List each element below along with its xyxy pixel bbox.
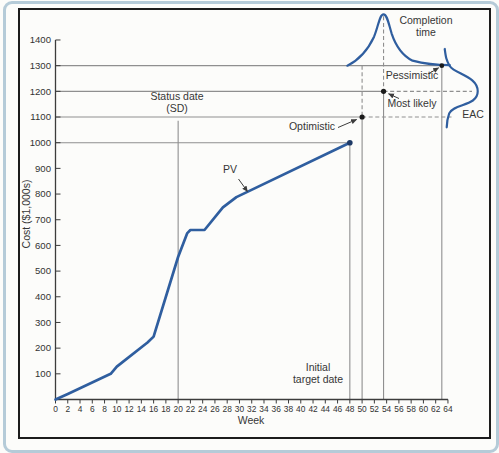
- x-tick-label: 2: [65, 404, 70, 414]
- x-tick-label: 20: [173, 404, 183, 414]
- x-tick-label: 16: [149, 404, 159, 414]
- x-tick-group: 0246810121416182022242628303234363840424…: [53, 400, 453, 415]
- y-tick-label: 900: [35, 163, 51, 174]
- y-tick-label: 1300: [30, 60, 51, 71]
- x-tick-label: 56: [394, 404, 404, 414]
- x-tick-label: 6: [90, 404, 95, 414]
- x-tick-label: 14: [137, 404, 147, 414]
- x-tick-label: 24: [198, 404, 208, 414]
- completion-time-line1: Completion: [399, 15, 452, 27]
- y-tick-label: 400: [35, 291, 51, 302]
- initial-target-line2: target date: [293, 374, 343, 386]
- x-tick-label: 36: [272, 404, 282, 414]
- x-tick-label: 50: [357, 404, 367, 414]
- figure-canvas: 0246810121416182022242628303234363840424…: [0, 0, 499, 453]
- pv-label: PV: [223, 164, 237, 176]
- completion-time-line2: time: [399, 27, 452, 39]
- x-tick-label: 0: [53, 404, 58, 414]
- initial-target-date-label: Initial target date: [293, 362, 343, 385]
- x-tick-label: 42: [308, 404, 318, 414]
- pessimistic-dot: [439, 63, 444, 68]
- x-axis-title: Week: [238, 415, 265, 427]
- y-tick-label: 100: [35, 368, 51, 379]
- x-tick-label: 54: [382, 404, 392, 414]
- x-tick-label: 8: [102, 404, 107, 414]
- status-date-line2: (SD): [150, 103, 203, 115]
- most-likely-label: Most likely: [387, 98, 436, 110]
- y-tick-label: 1000: [30, 137, 51, 148]
- x-tick-label: 34: [259, 404, 269, 414]
- x-tick-label: 18: [161, 404, 171, 414]
- x-tick-label: 32: [247, 404, 257, 414]
- x-tick-label: 48: [345, 404, 355, 414]
- optimistic-dot: [360, 114, 365, 119]
- x-tick-label: 26: [210, 404, 220, 414]
- initial-target-line1: Initial: [293, 362, 343, 374]
- x-tick-label: 30: [235, 404, 245, 414]
- x-tick-label: 40: [296, 404, 306, 414]
- x-tick-label: 22: [186, 404, 196, 414]
- x-tick-label: 58: [406, 404, 416, 414]
- x-tick-label: 60: [419, 404, 429, 414]
- x-tick-label: 28: [223, 404, 233, 414]
- y-tick-label: 1200: [30, 86, 51, 97]
- x-tick-label: 10: [112, 404, 122, 414]
- pv-end-dot: [347, 140, 353, 146]
- optimistic-label: Optimistic: [289, 121, 335, 133]
- most-likely-dot: [381, 89, 386, 94]
- y-axis-title: Cost ($1,000s): [20, 180, 32, 249]
- x-tick-label: 62: [431, 404, 441, 414]
- y-tick-label: 700: [35, 214, 51, 225]
- x-tick-label: 52: [370, 404, 380, 414]
- y-tick-label: 800: [35, 188, 51, 199]
- x-tick-label: 64: [443, 404, 453, 414]
- chart-svg: 0246810121416182022242628303234363840424…: [0, 0, 499, 453]
- x-tick-label: 12: [124, 404, 134, 414]
- y-tick-label: 1100: [30, 111, 51, 122]
- y-tick-label: 200: [35, 342, 51, 353]
- status-date-line1: Status date: [150, 91, 203, 103]
- x-tick-label: 44: [321, 404, 331, 414]
- status-date-label: Status date (SD): [150, 91, 203, 114]
- x-tick-label: 38: [284, 404, 294, 414]
- y-tick-label: 300: [35, 317, 51, 328]
- x-tick-label: 46: [333, 404, 343, 414]
- pv-arrow: [239, 179, 248, 192]
- x-tick-label: 4: [78, 404, 83, 414]
- completion-time-label: Completion time: [399, 15, 452, 38]
- y-tick-label: 1400: [30, 34, 51, 45]
- pessimistic-label: Pessimistic: [386, 70, 439, 82]
- y-tick-label: 600: [35, 240, 51, 251]
- y-tick-label: 500: [35, 265, 51, 276]
- optimistic-arrow: [338, 120, 357, 128]
- eac-label: EAC: [462, 109, 484, 121]
